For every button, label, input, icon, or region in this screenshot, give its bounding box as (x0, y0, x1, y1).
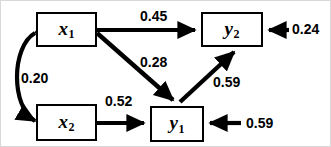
node-x1: x1 (36, 12, 97, 47)
coefficient-residual-y2: 0.24 (292, 22, 319, 36)
coefficient-y1-y2: 0.59 (213, 75, 240, 89)
path-diagram: x1 x2 y1 y2 0.45 0.28 0.52 0.59 0.20 0.2… (0, 0, 331, 147)
node-x1-label: x1 (59, 19, 75, 40)
node-y2: y2 (201, 12, 263, 47)
node-x2: x2 (36, 104, 97, 141)
node-y1-label: y1 (170, 113, 185, 134)
coefficient-x2-y1: 0.52 (105, 94, 132, 108)
node-y2-label: y2 (225, 19, 240, 40)
coefficient-x1-y2: 0.45 (140, 9, 167, 23)
coefficient-residual-y1: 0.59 (246, 116, 273, 130)
node-y1: y1 (150, 106, 204, 142)
coefficient-x1-x2: 0.20 (21, 71, 48, 85)
coefficient-x1-y1: 0.28 (140, 55, 167, 69)
node-x2-label: x2 (59, 112, 75, 133)
